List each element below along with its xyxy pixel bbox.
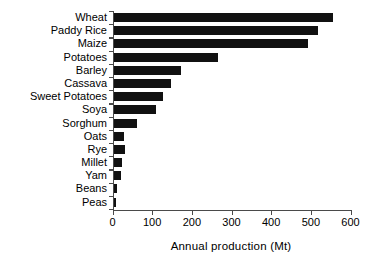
x-axis-title: Annual production (Mt) [112,240,350,252]
bar-row [113,117,351,130]
bar-wheat [113,13,334,22]
x-axis-tick-label: 600 [331,216,371,228]
y-axis-tick [109,37,113,38]
bar-row [113,24,351,37]
y-axis-tick [109,117,113,118]
category-axis-labels: Wheat Paddy Rice Maize Potatoes Barley C… [0,11,110,209]
bar-rye [113,145,125,154]
category-label: Potatoes [0,51,110,64]
category-label: Soya [0,103,110,116]
bar-row [113,143,351,156]
y-axis-tick [109,90,113,91]
bar-row [113,11,351,24]
x-axis-tick [351,210,352,215]
bar-row [113,130,351,143]
bar-soya [113,105,156,114]
x-axis-tick-label: 0 [93,216,133,228]
bar-row [113,103,351,116]
category-label: Sweet Potatoes [0,90,110,103]
category-label: Rye [0,143,110,156]
bar-chart: Wheat Paddy Rice Maize Potatoes Barley C… [0,0,381,269]
bar-paddy-rice [113,26,319,35]
bar-row [113,77,351,90]
x-axis-tick-label: 200 [172,216,212,228]
bar-sorghum [113,119,138,128]
x-axis-tick-label: 400 [251,216,291,228]
plot-area [113,11,351,210]
y-axis-tick [109,156,113,157]
category-label: Cassava [0,77,110,90]
bar-row [113,182,351,195]
y-axis-tick [109,130,113,131]
y-axis-tick [109,196,113,197]
y-axis-tick [109,183,113,184]
category-label: Paddy Rice [0,24,110,37]
category-label: Yam [0,169,110,182]
y-axis-tick [109,143,113,144]
x-axis-tick-label: 500 [291,216,331,228]
bar-row [113,90,351,103]
x-axis-tick [192,210,193,215]
bar-row [113,51,351,64]
y-axis-tick [109,51,113,52]
x-axis-tick [232,210,233,215]
category-label: Sorghum [0,117,110,130]
bar-row [113,169,351,182]
y-axis-tick [109,64,113,65]
bar-row [113,156,351,169]
bar-row [113,37,351,50]
category-label: Peas [0,196,110,209]
bar-row [113,64,351,77]
x-axis-tick-label: 100 [132,216,172,228]
bar-maize [113,39,309,48]
x-axis-tick-label: 300 [212,216,252,228]
y-axis-line [113,11,114,210]
y-axis-tick [109,11,113,12]
bar-barley [113,66,182,75]
bar-cassava [113,79,172,88]
x-axis-tick [311,210,312,215]
bar-millet [113,158,123,167]
category-label: Wheat [0,11,110,24]
y-axis-tick [109,24,113,25]
category-label: Barley [0,64,110,77]
bar-potatoes [113,53,219,62]
bar-row [113,196,351,209]
bar-oats [113,132,125,141]
bar-sweet-potatoes [113,92,163,101]
x-axis-tick [271,210,272,215]
category-label: Beans [0,182,110,195]
y-axis-tick [109,169,113,170]
x-axis-tick [152,210,153,215]
category-label: Oats [0,130,110,143]
y-axis-tick [109,77,113,78]
category-label: Maize [0,37,110,50]
category-label: Millet [0,156,110,169]
y-axis-tick [109,103,113,104]
x-axis-tick [113,210,114,215]
